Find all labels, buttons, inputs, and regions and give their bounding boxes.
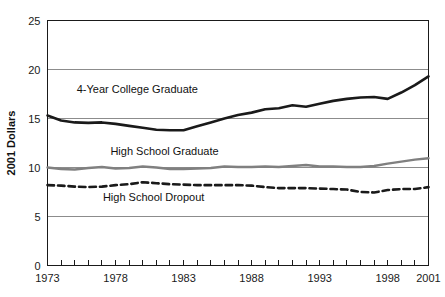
x-tick-label: 1978 — [103, 272, 127, 284]
series-label-0: 4-Year College Graduate — [77, 83, 198, 95]
y-tick-label: 15 — [28, 113, 40, 125]
y-axis-title: 2001 Dollars — [5, 111, 17, 176]
x-tick-label: 1983 — [171, 272, 195, 284]
series-label-2: High School Dropout — [103, 191, 205, 203]
x-tick-label: 1993 — [307, 272, 331, 284]
series-label-1: High School Graduate — [110, 145, 218, 157]
y-tick-label: 25 — [28, 15, 40, 27]
y-tick-label: 0 — [34, 260, 40, 272]
x-tick-label: 1973 — [35, 272, 59, 284]
chart-container: 0510152025 1973197819831988199319982001 … — [0, 0, 445, 297]
x-tick-label: 1998 — [375, 272, 399, 284]
line-chart: 0510152025 1973197819831988199319982001 … — [0, 0, 445, 297]
x-tick-label: 2001 — [416, 272, 440, 284]
y-tick-label: 20 — [28, 64, 40, 76]
x-tick-label: 1988 — [239, 272, 263, 284]
y-tick-label: 10 — [28, 162, 40, 174]
x-axis-ticks: 1973197819831988199319982001 — [35, 260, 440, 284]
y-axis-ticks: 0510152025 — [28, 15, 40, 272]
y-tick-label: 5 — [34, 211, 40, 223]
plot-frame — [48, 21, 429, 266]
